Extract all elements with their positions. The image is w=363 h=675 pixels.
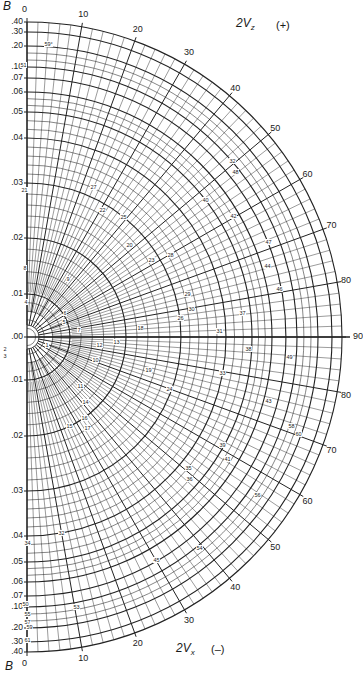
point-label: 38	[245, 346, 252, 352]
point-label: 1	[45, 342, 49, 348]
point-label: 32	[229, 158, 236, 164]
point-label: 17	[84, 425, 91, 431]
angle-label-top: 20	[133, 25, 143, 34]
point-label: 10	[92, 357, 99, 363]
point-label: 50	[22, 601, 29, 607]
angle-label-top: 90	[353, 332, 363, 341]
b-axis-letter-bottom: B	[5, 659, 13, 673]
point-label: 24	[166, 386, 173, 392]
b-axis-tick-bottom: .40	[1, 647, 23, 656]
point-label: 18	[137, 325, 144, 331]
angle-label-bottom: 60	[303, 497, 313, 506]
point-label: 23	[148, 257, 155, 263]
point-label: 2	[3, 346, 7, 352]
point-label: 27	[90, 184, 97, 190]
b-axis-tick-top: .02	[1, 233, 23, 242]
point-label: 30	[188, 306, 195, 312]
point-label: 11	[77, 383, 84, 389]
top-axis-title-main: 2V	[236, 16, 251, 30]
angle-label-bottom: 0	[22, 659, 27, 668]
b-axis-tick-top: .03	[1, 178, 23, 187]
point-label: 20	[126, 242, 133, 248]
angle-label-bottom: 30	[184, 616, 194, 625]
angle-label-bottom: 40	[230, 583, 240, 592]
point-label: 35	[185, 465, 192, 471]
b-axis-tick-bottom: .03	[1, 486, 23, 495]
bottom-axis-title-main: 2V	[176, 641, 191, 655]
point-label: 15	[66, 423, 73, 429]
point-label: 32	[58, 530, 65, 536]
point-label: 16	[81, 415, 88, 421]
angle-label-top: 80	[341, 276, 351, 285]
point-label: 42	[230, 213, 237, 219]
b-axis-tick-top: .06	[1, 87, 23, 96]
angle-label-top: 40	[230, 84, 240, 93]
point-label: 61	[24, 637, 31, 643]
point-label: 47	[265, 239, 272, 245]
point-label: 13	[113, 339, 120, 345]
point-label: 3	[3, 353, 7, 359]
b-axis-tick-top: .40	[1, 17, 23, 26]
point-label: 33	[219, 370, 226, 376]
b-axis-tick-bottom: .04	[1, 531, 23, 540]
point-label: 26	[177, 315, 184, 321]
b-axis-tick-bottom: .01	[1, 375, 23, 384]
angle-label-top: 0	[22, 5, 27, 14]
point-label: 4	[24, 299, 28, 305]
point-label: 9	[66, 276, 70, 282]
point-label: 5	[62, 319, 66, 325]
point-label: 36	[186, 476, 193, 482]
bottom-axis-sign: (–)	[211, 643, 224, 655]
point-label: 22	[99, 207, 106, 213]
b-axis-tick-top: .04	[1, 133, 23, 142]
angle-label-bottom: 80	[341, 391, 351, 400]
point-label: 43	[265, 398, 272, 404]
point-label: 60	[295, 431, 302, 437]
angle-label-bottom: 20	[133, 639, 143, 648]
b-axis-tick-bottom: .07	[1, 591, 23, 600]
bottom-axis-title: 2Vx	[176, 641, 195, 657]
b-axis-tick-top: .00	[1, 332, 23, 341]
point-label: 54	[196, 545, 203, 551]
top-axis-title: 2Vz	[236, 16, 255, 32]
point-label: 53	[73, 604, 80, 610]
point-label: 6	[63, 310, 67, 316]
point-label: 44	[264, 263, 271, 269]
point-label: 34	[24, 540, 31, 546]
point-label: 12	[96, 342, 103, 348]
point-label: 40	[202, 197, 209, 203]
top-axis-sign: (+)	[276, 19, 290, 31]
bottom-axis-title-sub: x	[191, 648, 195, 657]
b-axis-tick-top: .20	[1, 41, 23, 50]
point-label: 14	[82, 399, 89, 405]
b-axis-tick-top: .30	[1, 27, 23, 36]
point-label: 28	[167, 252, 174, 258]
b-axis-tick-top: .05	[1, 107, 23, 116]
angle-label-top: 10	[78, 10, 88, 19]
b-axis-tick-bottom: .20	[1, 623, 23, 632]
point-label: 19	[145, 367, 152, 373]
point-label: 45	[153, 557, 160, 563]
point-label: 29	[184, 291, 191, 297]
b-axis-tick-bottom: .06	[1, 577, 23, 586]
angle-label-bottom: 10	[78, 654, 88, 663]
point-label: 48	[232, 169, 239, 175]
point-label: 59°	[44, 41, 53, 47]
point-label: 39	[219, 442, 226, 448]
b-axis-letter-top: B	[3, 0, 11, 13]
point-label: 59	[26, 624, 33, 630]
angle-label-top: 30	[184, 48, 194, 57]
point-label: 31	[216, 328, 223, 334]
point-label: 46	[276, 286, 283, 292]
point-label: 56	[254, 492, 261, 498]
angle-label-bottom: 50	[270, 543, 280, 552]
angle-label-top: 50	[270, 124, 280, 133]
b-axis-tick-top: .01	[1, 289, 23, 298]
point-label: 8	[23, 265, 27, 271]
point-label: 21	[21, 187, 28, 193]
point-label: 58	[288, 423, 295, 429]
top-axis-title-sub: z	[251, 23, 255, 32]
point-label: 25	[120, 214, 127, 220]
angle-label-top: 70	[326, 221, 336, 230]
